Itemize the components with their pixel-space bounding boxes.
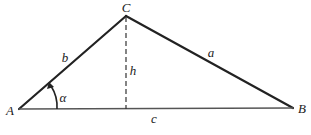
altitude-label-h: h [130,64,137,77]
side-label-c: c [151,112,157,125]
side-a [126,16,293,108]
side-label-a: a [208,46,215,59]
vertex-label-a: A [6,104,14,117]
side-label-b: b [62,51,69,64]
triangle-diagram: C A B b a c h α [0,0,311,135]
side-b [19,16,126,109]
angle-label-alpha: α [60,91,67,104]
side-c [19,108,293,109]
vertex-label-b: B [298,102,306,115]
angle-alpha-arc [51,86,57,109]
vertex-label-c: C [122,1,131,14]
